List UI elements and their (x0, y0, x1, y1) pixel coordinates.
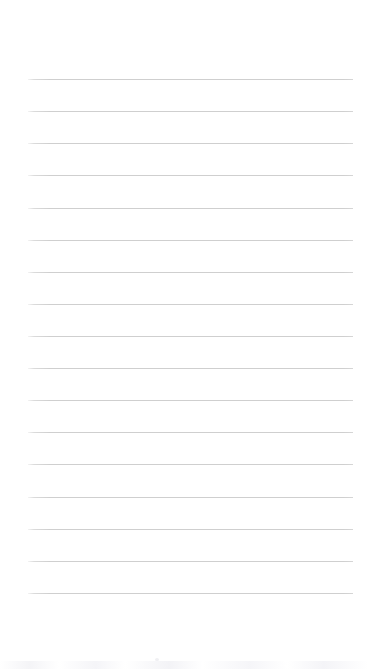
ruled-line (28, 400, 353, 401)
ruled-line (28, 529, 353, 530)
ruled-line (28, 208, 353, 209)
scan-speck-artifact (155, 658, 159, 661)
ruled-lines-group (0, 0, 368, 669)
ruled-line (28, 593, 353, 594)
ruled-line (28, 272, 353, 273)
ruled-line (28, 561, 353, 562)
scanned-page (0, 0, 368, 669)
ruled-line (28, 240, 353, 241)
ruled-line (28, 304, 353, 305)
ruled-line (28, 497, 353, 498)
ruled-line (28, 143, 353, 144)
ruled-line (28, 175, 353, 176)
ruled-line (28, 336, 353, 337)
ruled-line (28, 368, 353, 369)
scan-noise-artifact (0, 661, 368, 669)
ruled-line (28, 111, 353, 112)
ruled-line (28, 464, 353, 465)
ruled-line (28, 79, 353, 80)
ruled-line (28, 432, 353, 433)
